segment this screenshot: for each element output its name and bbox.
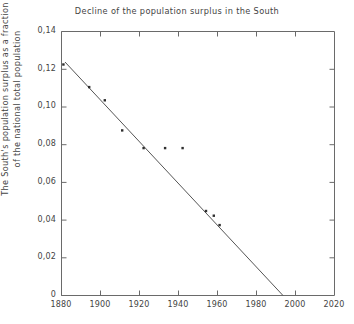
trend-line-segment	[65, 62, 283, 296]
y-axis-ticks	[62, 32, 335, 296]
data-point	[88, 86, 90, 88]
data-point	[164, 147, 166, 149]
data-point	[121, 129, 123, 131]
plot-svg	[0, 0, 354, 324]
data-point	[213, 215, 215, 217]
chart-figure: Decline of the population surplus in the…	[0, 0, 354, 324]
x-axis-ticks	[62, 32, 296, 296]
data-point	[181, 147, 183, 149]
data-point	[205, 210, 207, 212]
data-point	[62, 63, 64, 65]
data-point	[104, 99, 106, 101]
data-points	[62, 63, 221, 226]
plot-axes	[62, 32, 335, 296]
data-point	[218, 224, 220, 226]
trend-line	[65, 62, 283, 296]
data-point	[142, 147, 144, 149]
